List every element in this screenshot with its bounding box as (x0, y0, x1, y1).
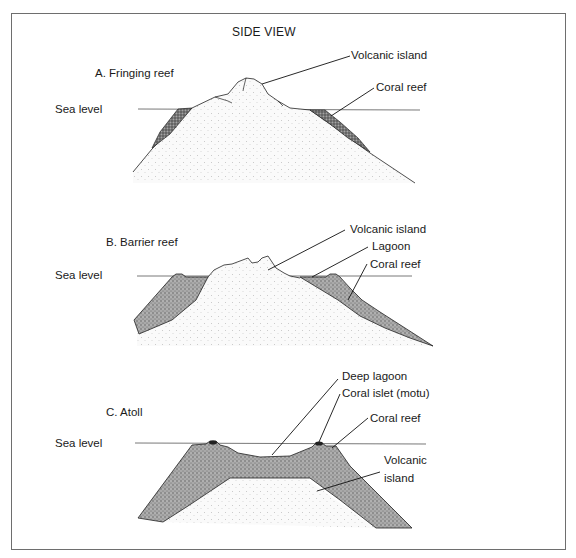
panel-a-fringing-reef (133, 56, 420, 183)
volcanic-island-label-a: Volcanic island (351, 49, 427, 62)
figure-title: SIDE VIEW (232, 26, 296, 39)
panel-a-heading: A. Fringing reef (95, 67, 174, 80)
panel-c-atoll (135, 379, 426, 528)
panel-c-heading: C. Atoll (106, 406, 142, 419)
coral-islet-right (315, 442, 323, 446)
coral-islet-label-c: Coral islet (motu) (342, 387, 430, 400)
volcanic-island-label-b: Volcanic island (350, 223, 426, 236)
sea-level-label-a: Sea level (55, 103, 102, 116)
volcanic-label-c: Volcanic (384, 454, 427, 467)
coral-reef-label-a: Coral reef (376, 81, 427, 94)
deep-lagoon-label-c: Deep lagoon (342, 370, 407, 383)
coral-islet-left (209, 441, 217, 445)
lagoon-label-b: Lagoon (372, 240, 410, 253)
coral-reef-label-b: Coral reef (370, 258, 421, 271)
volcanic-island-shape-a (133, 78, 415, 183)
coral-reef-label-c: Coral reef (370, 412, 421, 425)
panel-b-heading: B. Barrier reef (106, 236, 178, 249)
sea-level-label-b: Sea level (55, 269, 102, 282)
sea-level-label-c: Sea level (55, 437, 102, 450)
sea-level-line-c (135, 443, 426, 444)
island-label-c: island (384, 472, 414, 485)
